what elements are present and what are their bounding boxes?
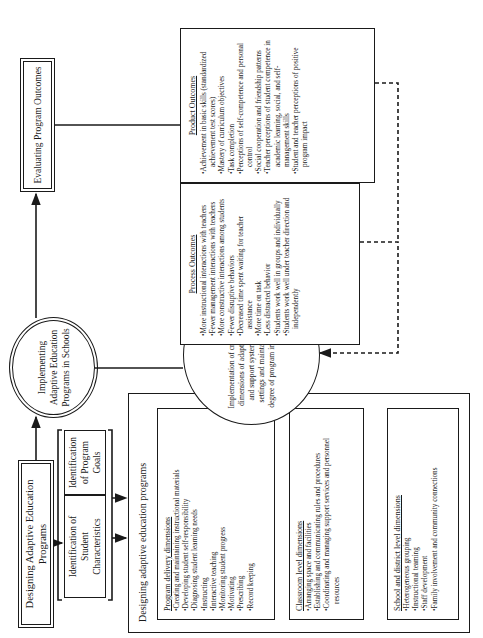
list-item: More time on task xyxy=(255,192,264,336)
list-item: Decreased time spent waiting for teacher… xyxy=(237,192,255,336)
list-item: Instructing xyxy=(201,417,210,611)
designing-programs-box: Designing adaptive education programs Pr… xyxy=(128,393,470,633)
product-outcomes-list: Achievement in basic skills (standardize… xyxy=(200,37,310,174)
list-item: Establishing and communicating rules and… xyxy=(314,417,323,611)
classroom-level-box: Classroom level dimensions Arranging spa… xyxy=(289,408,364,620)
list-item: Record keeping xyxy=(247,417,256,611)
list-item: Prescribing xyxy=(237,417,246,611)
school-district-list: Heterogeneous grouping Instructional tea… xyxy=(403,417,440,611)
list-item: Fewer management interactions with teach… xyxy=(209,192,218,336)
program-delivery-box: Program delivery dimensions Creating and… xyxy=(157,408,275,620)
list-item: Interactive teaching xyxy=(210,417,219,611)
process-outcomes-header: Process Outcomes xyxy=(187,192,198,336)
implementing-circle: Implementing Adaptive Education Programs… xyxy=(12,320,95,415)
list-item: Instructional teaming xyxy=(412,417,421,611)
list-item: Arranging space and facilities xyxy=(305,417,314,611)
school-district-header: School and district level dimensions xyxy=(393,417,403,611)
identification-student-label: Identification of Student Characteristic… xyxy=(67,504,103,589)
process-outcomes-box: Process Outcomes More instructional inte… xyxy=(180,183,360,345)
identification-goals-box: Identification of Program Goals xyxy=(64,430,106,495)
list-item: More instructional interactions with tea… xyxy=(200,192,209,336)
list-item: Task completion xyxy=(228,37,237,174)
list-item: Family involvement and community connect… xyxy=(431,417,440,611)
program-delivery-header: Program delivery dimensions xyxy=(163,417,173,611)
product-outcomes-box: Product Outcomes Achievement in basic sk… xyxy=(180,28,375,183)
list-item: Staff development xyxy=(421,417,430,611)
list-item: Less distracted behavior xyxy=(264,192,273,336)
list-item: More constructive interactions among stu… xyxy=(218,192,227,336)
list-item: Achievement in basic skills (standardize… xyxy=(200,37,218,174)
list-item: Creating and maintaining instructional m… xyxy=(173,417,182,611)
list-item: Teacher perceptions of student competenc… xyxy=(264,37,292,174)
designing-adaptive-programs-box: Designing Adaptive Education Programs xyxy=(18,460,54,628)
classroom-level-list: Arranging space and facilities Establish… xyxy=(305,417,342,611)
designing-adaptive-programs-title: Designing Adaptive Education Programs xyxy=(21,463,51,625)
list-item: Social cooperation and friendship patter… xyxy=(255,37,264,174)
identification-student-box: Identification of Student Characteristic… xyxy=(64,495,106,598)
designing-programs-title: Designing adaptive education programs xyxy=(137,404,149,622)
implementing-title: Implementing Adaptive Education Programs… xyxy=(36,327,72,408)
list-item: Students work well under teacher directi… xyxy=(283,192,301,336)
list-item: Fewer disruptive behaviors xyxy=(228,192,237,336)
diagram-canvas: Designing Adaptive Education Programs Id… xyxy=(0,0,483,638)
list-item: Heterogeneous grouping xyxy=(403,417,412,611)
list-item: Monitoring student progress xyxy=(219,417,228,611)
list-item: Student and teacher perceptions of posit… xyxy=(292,37,310,174)
list-item: Diagnosing student learning needs xyxy=(191,417,200,611)
product-outcomes-header: Product Outcomes xyxy=(187,37,198,174)
list-item: Mastery of curriculum objectives xyxy=(218,37,227,174)
list-item: Perceptions of self-competence and perso… xyxy=(237,37,255,174)
process-outcomes-list: More instructional interactions with tea… xyxy=(200,192,301,336)
list-item: Coordinating and managing support servic… xyxy=(323,417,341,611)
list-item: Students work well in groups and individ… xyxy=(274,192,283,336)
list-item: Motivating xyxy=(228,417,237,611)
list-item: Developing student self-responsibility xyxy=(182,417,191,611)
evaluating-outcomes-box: Evaluating Program Outcomes xyxy=(20,58,55,192)
program-delivery-list: Creating and maintaining instructional m… xyxy=(173,417,256,611)
classroom-level-header: Classroom level dimensions xyxy=(295,417,305,611)
evaluating-outcomes-title: Evaluating Program Outcomes xyxy=(23,61,52,189)
identification-goals-label: Identification of Program Goals xyxy=(67,437,103,488)
school-district-box: School and district level dimensions Het… xyxy=(387,408,459,620)
